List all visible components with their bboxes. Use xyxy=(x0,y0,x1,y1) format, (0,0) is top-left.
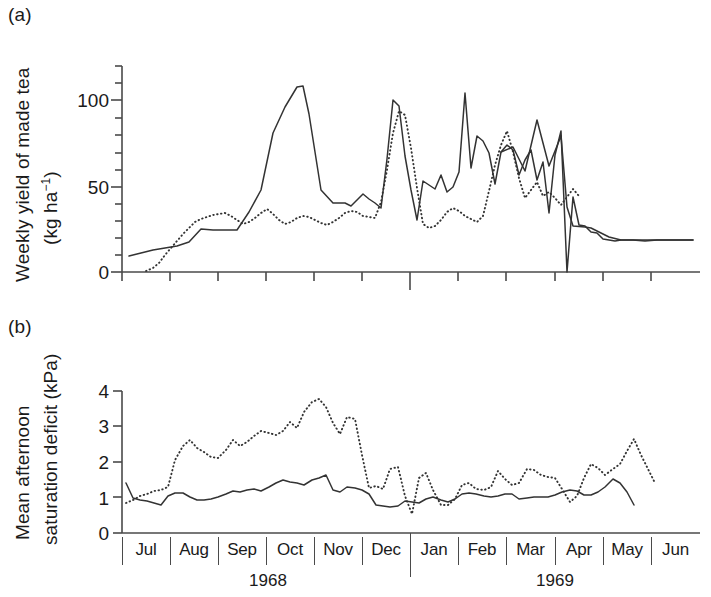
panel-b-ytick-1: 1 xyxy=(98,488,109,509)
month-label-feb: Feb xyxy=(458,540,506,560)
panel-b-ytick-0: 0 xyxy=(98,523,109,544)
month-label-oct: Oct xyxy=(266,540,314,560)
year-label-1969: 1969 xyxy=(505,571,605,591)
month-label-apr: Apr xyxy=(555,540,603,560)
panel-b-ytick-2: 2 xyxy=(98,452,109,473)
panel-b-plot: 4 3 2 1 0 xyxy=(0,0,711,597)
month-label-sep: Sep xyxy=(218,540,266,560)
month-label-jan: Jan xyxy=(410,540,458,560)
month-label-aug: Aug xyxy=(170,540,218,560)
month-label-mar: Mar xyxy=(506,540,555,560)
panel-b-ytick-4: 4 xyxy=(98,381,109,402)
year-label-1968: 1968 xyxy=(218,571,318,591)
panel-b-solid-series xyxy=(126,475,634,507)
panel-b-ytick-3: 3 xyxy=(98,416,109,437)
month-label-nov: Nov xyxy=(314,540,362,560)
month-label-jun: Jun xyxy=(651,540,700,560)
panel-b-yticks xyxy=(113,391,122,533)
month-label-dec: Dec xyxy=(362,540,410,560)
figure-container: (a) Weekly yield of made tea (kg ha−1) 1… xyxy=(0,0,711,597)
panel-b-dotted-series xyxy=(126,399,655,514)
month-label-may: May xyxy=(603,540,651,560)
month-label-jul: Jul xyxy=(122,540,170,560)
